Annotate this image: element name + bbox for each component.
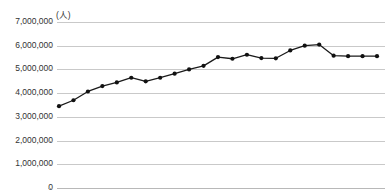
data-point — [201, 64, 205, 68]
data-point — [86, 89, 90, 93]
data-point — [259, 56, 263, 60]
data-point — [100, 84, 104, 88]
y-tick-dash-3000000 — [48, 117, 53, 118]
data-point — [158, 76, 162, 80]
y-tick-label-6000000: 6,000,000 — [15, 40, 53, 50]
data-point — [173, 72, 177, 76]
y-tick-label-7000000: 7,000,000 — [15, 16, 53, 26]
line-chart: (人) 7,000,0006,000,0005,000,0004,000,000… — [0, 0, 388, 192]
y-axis-tick-labels: 7,000,0006,000,0005,000,0004,000,0003,00… — [0, 0, 53, 192]
data-point — [216, 55, 220, 59]
y-tick-dash-4000000 — [48, 93, 53, 94]
data-point — [332, 54, 336, 58]
y-tick-label-2000000: 2,000,000 — [15, 135, 53, 145]
data-point — [274, 56, 278, 60]
y-tick-dash-5000000 — [48, 69, 53, 70]
data-point — [375, 54, 379, 58]
series-polyline — [59, 45, 377, 107]
plot-area — [57, 0, 385, 192]
y-tick-dash-6000000 — [48, 46, 53, 47]
y-tick-label-3000000: 3,000,000 — [15, 111, 53, 121]
data-point — [360, 54, 364, 58]
data-point — [303, 44, 307, 48]
data-point — [71, 98, 75, 102]
data-point — [317, 42, 321, 46]
data-point — [187, 67, 191, 71]
data-point — [230, 57, 234, 61]
y-tick-dash-2000000 — [48, 141, 53, 142]
series-line-layer — [57, 0, 385, 192]
y-tick-dash-7000000 — [48, 22, 53, 23]
y-tick-dash-1000000 — [48, 164, 53, 165]
data-point — [245, 53, 249, 57]
data-point — [346, 54, 350, 58]
data-point — [129, 76, 133, 80]
data-point — [115, 80, 119, 84]
y-tick-dash-0 — [48, 188, 53, 189]
series-markers — [57, 42, 379, 108]
y-tick-label-0: 0 — [48, 182, 53, 192]
data-point — [288, 48, 292, 52]
data-point — [57, 104, 61, 108]
data-point — [144, 79, 148, 83]
